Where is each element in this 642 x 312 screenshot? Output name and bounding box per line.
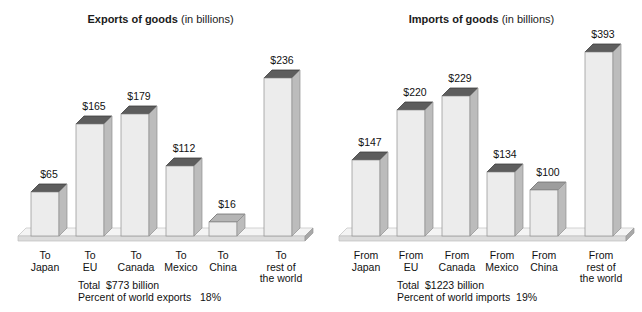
imports-value-eu: $220 <box>391 87 439 98</box>
exports-cat-eu-line1: To <box>68 250 112 262</box>
imports-value-japan: $147 <box>346 137 394 148</box>
exports-bar-eu <box>76 116 112 236</box>
exports-bar-canada <box>121 106 157 236</box>
exports-cat-canada-line1: To <box>111 250 161 262</box>
exports-cat-china-line1: To <box>200 250 246 262</box>
exports-value-mexico: $112 <box>162 143 206 154</box>
exports-cat-eu-line2: EU <box>68 262 112 274</box>
exports-bar-china <box>209 214 245 236</box>
exports-value-eu: $165 <box>72 101 116 112</box>
exports-category-labels: To Japan To EU To Canada To Mexico To Ch… <box>0 250 321 282</box>
exports-cat-eu: To EU <box>68 250 112 273</box>
exports-cat-rest-line1: To <box>253 250 309 262</box>
imports-cat-japan-line1: From <box>342 250 390 262</box>
imports-summary: Total $1223 billion Percent of world imp… <box>321 280 642 303</box>
exports-value-japan: $65 <box>27 169 71 180</box>
exports-cat-mexico: To Mexico <box>157 250 205 273</box>
imports-percent-line: Percent of world imports 19% <box>397 292 642 304</box>
imports-cat-japan-line2: Japan <box>342 262 390 274</box>
imports-value-canada: $229 <box>436 73 484 84</box>
imports-category-labels: From Japan From EU From Canada From Mexi… <box>321 250 642 282</box>
imports-cat-eu: From EU <box>387 250 435 273</box>
exports-cat-japan: To Japan <box>23 250 67 273</box>
imports-cat-rest-line1: From <box>573 250 629 262</box>
exports-cat-canada: To Canada <box>111 250 161 273</box>
imports-bar-japan <box>352 152 388 236</box>
imports-value-china: $100 <box>524 167 572 178</box>
exports-plot-area: $65 $165 $179 $112 $16 $236 <box>0 0 321 250</box>
imports-bar-mexico <box>487 164 523 236</box>
exports-value-china: $16 <box>205 199 249 210</box>
exports-cat-mexico-line1: To <box>157 250 205 262</box>
imports-plot-area: $147 $220 $229 $134 $100 $393 <box>321 0 642 250</box>
exports-bars-svg <box>0 0 321 250</box>
imports-bar-canada <box>442 88 478 236</box>
imports-chart-panel: Imports of goods (in billions) <box>321 0 642 312</box>
imports-value-mexico: $134 <box>481 149 529 160</box>
exports-cat-japan-line1: To <box>23 250 67 262</box>
exports-cat-japan-line2: Japan <box>23 262 67 274</box>
imports-cat-china: From China <box>520 250 568 273</box>
exports-cat-mexico-line2: Mexico <box>157 262 205 274</box>
imports-cat-china-line1: From <box>520 250 568 262</box>
exports-bar-rest-of-world <box>264 70 300 236</box>
imports-cat-eu-line1: From <box>387 250 435 262</box>
exports-bar-japan <box>31 184 67 236</box>
imports-cat-japan: From Japan <box>342 250 390 273</box>
exports-bar-mexico <box>166 158 202 236</box>
exports-value-rest-of-world: $236 <box>260 55 304 66</box>
exports-cat-china: To China <box>200 250 246 273</box>
exports-cat-china-line2: China <box>200 262 246 274</box>
exports-cat-canada-line2: Canada <box>111 262 161 274</box>
imports-bar-rest-of-world <box>585 44 621 236</box>
imports-cat-eu-line2: EU <box>387 262 435 274</box>
exports-chart-panel: Exports of goods (in billions) <box>0 0 321 312</box>
imports-value-rest-of-world: $393 <box>579 29 627 40</box>
imports-cat-china-line2: China <box>520 262 568 274</box>
imports-bar-china <box>530 182 566 236</box>
imports-bar-eu <box>397 102 433 236</box>
exports-value-canada: $179 <box>117 91 161 102</box>
imports-total-line: Total $1223 billion <box>397 280 642 292</box>
